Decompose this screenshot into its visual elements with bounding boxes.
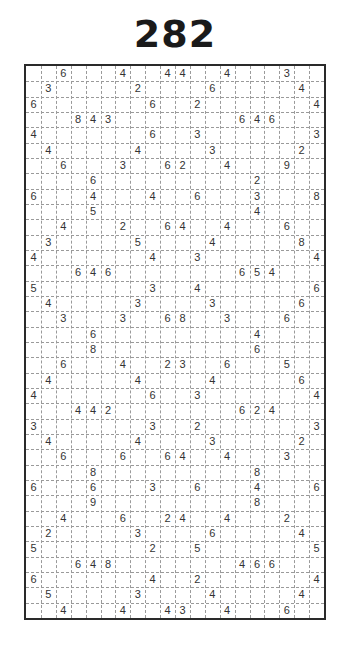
clue-cell[interactable]: 6 bbox=[294, 296, 309, 311]
clue-cell[interactable]: 3 bbox=[309, 419, 324, 434]
clue-cell[interactable]: 2 bbox=[101, 403, 116, 418]
clue-cell[interactable]: 8 bbox=[294, 235, 309, 250]
clue-cell[interactable]: 3 bbox=[41, 235, 56, 250]
clue-cell[interactable]: 6 bbox=[145, 127, 160, 142]
clue-cell[interactable]: 6 bbox=[56, 66, 71, 81]
clue-cell[interactable]: 6 bbox=[190, 189, 205, 204]
clue-cell[interactable]: 2 bbox=[294, 434, 309, 449]
clue-cell[interactable]: 6 bbox=[279, 311, 294, 326]
clue-cell[interactable]: 4 bbox=[309, 388, 324, 403]
clue-cell[interactable]: 2 bbox=[41, 526, 56, 541]
clue-cell[interactable]: 2 bbox=[145, 541, 160, 556]
clue-cell[interactable]: 8 bbox=[101, 557, 116, 572]
clue-cell[interactable]: 6 bbox=[309, 480, 324, 495]
clue-cell[interactable]: 6 bbox=[56, 449, 71, 464]
clue-cell[interactable]: 6 bbox=[235, 403, 250, 418]
clue-cell[interactable]: 3 bbox=[279, 449, 294, 464]
clue-cell[interactable]: 3 bbox=[145, 281, 160, 296]
clue-cell[interactable]: 3 bbox=[130, 587, 145, 602]
clue-cell[interactable]: 5 bbox=[26, 541, 41, 556]
clue-cell[interactable]: 2 bbox=[190, 419, 205, 434]
clue-cell[interactable]: 4 bbox=[86, 112, 101, 127]
clue-cell[interactable]: 8 bbox=[250, 465, 265, 480]
clue-cell[interactable]: 4 bbox=[175, 66, 190, 81]
clue-cell[interactable]: 6 bbox=[26, 189, 41, 204]
clue-cell[interactable]: 4 bbox=[41, 143, 56, 158]
clue-cell[interactable]: 4 bbox=[145, 250, 160, 265]
clue-cell[interactable]: 5 bbox=[309, 541, 324, 556]
clue-cell[interactable]: 3 bbox=[175, 603, 190, 618]
clue-cell[interactable]: 3 bbox=[205, 296, 220, 311]
clue-cell[interactable]: 4 bbox=[250, 204, 265, 219]
clue-cell[interactable]: 6 bbox=[235, 112, 250, 127]
clue-cell[interactable]: 8 bbox=[86, 342, 101, 357]
clue-cell[interactable]: 3 bbox=[145, 419, 160, 434]
clue-cell[interactable]: 3 bbox=[220, 311, 235, 326]
clue-cell[interactable]: 4 bbox=[86, 403, 101, 418]
clue-cell[interactable]: 4 bbox=[160, 603, 175, 618]
clue-cell[interactable]: 4 bbox=[115, 66, 130, 81]
clue-cell[interactable]: 4 bbox=[294, 81, 309, 96]
clue-cell[interactable]: 4 bbox=[26, 127, 41, 142]
clue-cell[interactable]: 4 bbox=[309, 97, 324, 112]
clue-cell[interactable]: 4 bbox=[250, 112, 265, 127]
clue-cell[interactable]: 5 bbox=[190, 541, 205, 556]
clue-cell[interactable]: 2 bbox=[190, 97, 205, 112]
clue-cell[interactable]: 6 bbox=[160, 311, 175, 326]
clue-cell[interactable]: 4 bbox=[235, 557, 250, 572]
clue-cell[interactable]: 6 bbox=[264, 112, 279, 127]
clue-cell[interactable]: 3 bbox=[130, 526, 145, 541]
clue-cell[interactable]: 4 bbox=[26, 388, 41, 403]
clue-cell[interactable]: 4 bbox=[175, 219, 190, 234]
clue-cell[interactable]: 3 bbox=[115, 311, 130, 326]
clue-cell[interactable]: 5 bbox=[130, 235, 145, 250]
clue-cell[interactable]: 8 bbox=[309, 189, 324, 204]
clue-cell[interactable]: 6 bbox=[26, 97, 41, 112]
clue-cell[interactable]: 4 bbox=[71, 403, 86, 418]
clue-cell[interactable]: 4 bbox=[220, 603, 235, 618]
clue-cell[interactable]: 6 bbox=[309, 281, 324, 296]
clue-cell[interactable]: 6 bbox=[26, 572, 41, 587]
clue-cell[interactable]: 4 bbox=[41, 434, 56, 449]
clue-cell[interactable]: 2 bbox=[190, 572, 205, 587]
clue-cell[interactable]: 6 bbox=[56, 158, 71, 173]
clue-cell[interactable]: 6 bbox=[160, 219, 175, 234]
clue-cell[interactable]: 6 bbox=[279, 219, 294, 234]
clue-cell[interactable]: 9 bbox=[279, 158, 294, 173]
clue-cell[interactable]: 6 bbox=[86, 327, 101, 342]
clue-cell[interactable]: 3 bbox=[145, 480, 160, 495]
clue-cell[interactable]: 4 bbox=[86, 189, 101, 204]
clue-cell[interactable]: 4 bbox=[220, 66, 235, 81]
clue-cell[interactable]: 4 bbox=[264, 403, 279, 418]
clue-cell[interactable]: 4 bbox=[56, 603, 71, 618]
clue-cell[interactable]: 6 bbox=[115, 511, 130, 526]
clue-cell[interactable]: 6 bbox=[205, 81, 220, 96]
clue-cell[interactable]: 4 bbox=[175, 449, 190, 464]
clue-cell[interactable]: 4 bbox=[175, 511, 190, 526]
clue-cell[interactable]: 4 bbox=[56, 219, 71, 234]
clue-cell[interactable]: 6 bbox=[160, 449, 175, 464]
clue-cell[interactable]: 4 bbox=[264, 265, 279, 280]
clue-cell[interactable]: 4 bbox=[205, 235, 220, 250]
clue-cell[interactable]: 6 bbox=[71, 265, 86, 280]
clue-cell[interactable]: 4 bbox=[309, 572, 324, 587]
clue-cell[interactable]: 4 bbox=[130, 434, 145, 449]
clue-cell[interactable]: 6 bbox=[101, 265, 116, 280]
clue-cell[interactable]: 4 bbox=[220, 158, 235, 173]
clue-cell[interactable]: 2 bbox=[294, 143, 309, 158]
clue-cell[interactable]: 4 bbox=[115, 357, 130, 372]
clue-cell[interactable]: 3 bbox=[309, 127, 324, 142]
clue-cell[interactable]: 6 bbox=[264, 557, 279, 572]
clue-cell[interactable]: 4 bbox=[145, 572, 160, 587]
clue-cell[interactable]: 4 bbox=[205, 587, 220, 602]
clue-cell[interactable]: 4 bbox=[309, 250, 324, 265]
clue-cell[interactable]: 4 bbox=[294, 587, 309, 602]
clue-cell[interactable]: 6 bbox=[279, 603, 294, 618]
clue-cell[interactable]: 4 bbox=[130, 143, 145, 158]
clue-cell[interactable]: 4 bbox=[130, 373, 145, 388]
clue-cell[interactable]: 4 bbox=[220, 511, 235, 526]
clue-cell[interactable]: 4 bbox=[41, 296, 56, 311]
clue-cell[interactable]: 6 bbox=[205, 526, 220, 541]
clue-cell[interactable]: 4 bbox=[250, 480, 265, 495]
clue-cell[interactable]: 4 bbox=[56, 511, 71, 526]
